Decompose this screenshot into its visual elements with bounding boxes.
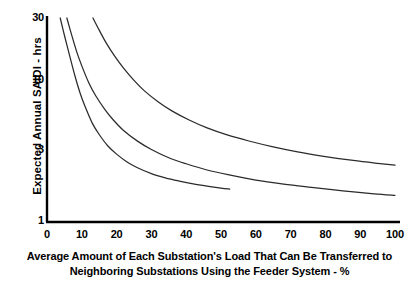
chart-figure: 30 10 3 1 0102030405060708090100 Expecte… bbox=[0, 0, 414, 288]
x-tick-label-70: 70 bbox=[277, 228, 305, 240]
x-tick-label-0: 0 bbox=[33, 228, 61, 240]
x-axis-title-line-2: Neighboring Substations Using the Feeder… bbox=[22, 264, 397, 279]
x-tick-label-40: 40 bbox=[172, 228, 200, 240]
y-axis-title: Expected Annual SAIDI - hrs bbox=[31, 21, 43, 211]
x-tick-label-100: 100 bbox=[381, 228, 409, 240]
x-tick-label-90: 90 bbox=[346, 228, 374, 240]
curve-curve-middle bbox=[67, 18, 395, 195]
x-tick-label-10: 10 bbox=[68, 228, 96, 240]
plot-area bbox=[0, 0, 414, 288]
x-tick-label-20: 20 bbox=[103, 228, 131, 240]
x-tick-label-50: 50 bbox=[207, 228, 235, 240]
x-tick-label-30: 30 bbox=[137, 228, 165, 240]
x-axis-title-line-1: Average Amount of Each Substation's Load… bbox=[27, 250, 393, 262]
x-tick-label-80: 80 bbox=[311, 228, 339, 240]
curve-curve-lower bbox=[60, 18, 229, 189]
x-axis-title: Average Amount of Each Substation's Load… bbox=[22, 249, 397, 279]
x-tick-label-60: 60 bbox=[242, 228, 270, 240]
curve-curve-upper bbox=[93, 18, 395, 165]
y-tick-label-1: 1 bbox=[20, 214, 44, 226]
data-curves bbox=[60, 18, 395, 195]
